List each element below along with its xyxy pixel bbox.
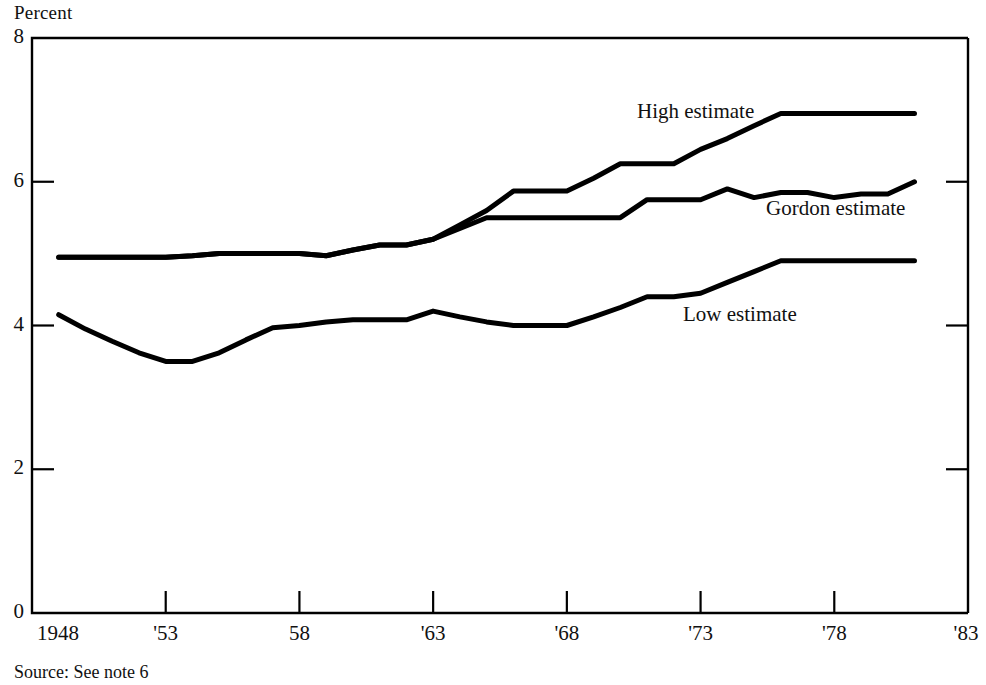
source-note: Source: See note 6 <box>14 662 148 683</box>
series-line-high-estimate <box>59 114 915 258</box>
series-label-low-estimate: Low estimate <box>683 302 797 327</box>
x-tick-label-1963: '63 <box>403 621 463 646</box>
y-tick-label-2: 2 <box>0 455 24 480</box>
x-tick-label-1978: '78 <box>804 621 864 646</box>
x-axis-ticks <box>166 591 835 613</box>
x-tick-label-1958: 58 <box>269 621 329 646</box>
series-label-gordon-estimate: Gordon estimate <box>766 196 905 221</box>
x-tick-label-1973: '73 <box>671 621 731 646</box>
chart-figure: Percent 0 2 4 6 8 1948 '53 58 '63 '68 '7… <box>0 0 986 685</box>
x-tick-label-1948: 1948 <box>28 621 88 646</box>
y-tick-label-8: 8 <box>0 24 24 49</box>
y-tick-label-0: 0 <box>0 599 24 624</box>
y-tick-label-4: 4 <box>0 312 24 337</box>
x-tick-label-1953: '53 <box>136 621 196 646</box>
y-tick-label-6: 6 <box>0 168 24 193</box>
series-label-high-estimate: High estimate <box>637 99 754 124</box>
x-tick-label-1968: '68 <box>537 621 597 646</box>
x-tick-label-1983: '83 <box>936 621 986 646</box>
line-chart-plot <box>0 0 986 685</box>
